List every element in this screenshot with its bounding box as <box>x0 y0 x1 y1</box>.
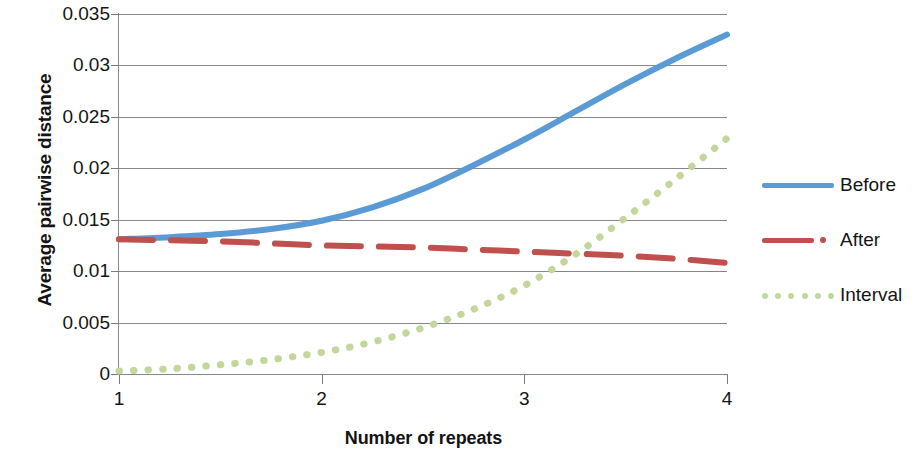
x-tick-mark <box>119 375 120 384</box>
x-tick-label: 3 <box>494 388 554 410</box>
gridline <box>119 374 727 375</box>
legend-swatch-before-icon <box>760 174 838 196</box>
legend-label: Interval <box>838 284 902 306</box>
gridline <box>119 65 727 66</box>
x-tick-label: 4 <box>697 388 757 410</box>
chart-legend: BeforeAfterInterval <box>760 170 921 320</box>
legend-item-after[interactable]: After <box>760 225 921 255</box>
y-tick-mark <box>111 271 119 272</box>
gridline <box>119 220 727 221</box>
gridline <box>119 117 727 118</box>
gridline <box>119 168 727 169</box>
legend-swatch-interval-icon <box>760 284 838 306</box>
gridline <box>119 323 727 324</box>
legend-item-interval[interactable]: Interval <box>760 280 921 310</box>
legend-label: After <box>838 229 880 251</box>
legend-swatch-after-icon <box>760 229 838 251</box>
legend-label: Before <box>838 174 896 196</box>
y-tick-mark <box>111 168 119 169</box>
chart-container: Average pairwise distance 00.0050.010.01… <box>0 0 921 467</box>
y-tick-mark <box>111 14 119 15</box>
y-tick-label: 0.02 <box>32 158 110 177</box>
x-tick-mark <box>727 375 728 384</box>
plot-area <box>119 14 727 374</box>
y-tick-label: 0.03 <box>32 55 110 74</box>
y-tick-mark <box>111 117 119 118</box>
y-tick-mark <box>111 323 119 324</box>
x-tick-label: 2 <box>292 388 352 410</box>
y-tick-mark <box>111 65 119 66</box>
x-tick-label: 1 <box>89 388 149 410</box>
y-tick-label: 0.005 <box>32 313 110 332</box>
gridline <box>119 14 727 15</box>
y-tick-label: 0 <box>32 364 110 383</box>
x-tick-mark <box>524 375 525 384</box>
x-axis-title: Number of repeats <box>119 428 728 449</box>
y-tick-mark <box>111 374 119 375</box>
y-tick-label: 0.035 <box>32 4 110 23</box>
y-tick-label: 0.015 <box>32 210 110 229</box>
legend-item-before[interactable]: Before <box>760 170 921 200</box>
x-tick-mark <box>322 375 323 384</box>
y-tick-label: 0.01 <box>32 261 110 280</box>
gridline <box>119 271 727 272</box>
y-axis-tick-labels: 00.0050.010.0150.020.0250.030.035 <box>28 0 110 400</box>
y-tick-mark <box>111 220 119 221</box>
y-tick-label: 0.025 <box>32 107 110 126</box>
